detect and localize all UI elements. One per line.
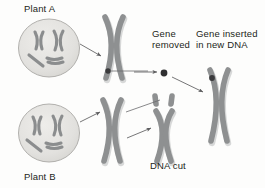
chromosome-result bbox=[209, 70, 229, 143]
label-gene-removed: Gene removed bbox=[152, 28, 190, 50]
cell-membrane-a bbox=[19, 19, 80, 77]
label-dna-cut: DNA cut bbox=[150, 160, 186, 171]
label-gene-inserted: Gene inserted in new DNA bbox=[196, 28, 258, 50]
chromosome-donor bbox=[105, 17, 124, 80]
label-plant-a: Plant A bbox=[24, 3, 55, 14]
arrow-isolated-gene-to-result bbox=[172, 77, 203, 92]
isolated-gene-dot bbox=[161, 70, 168, 77]
arrow-recipient-to-cut bbox=[127, 128, 151, 138]
figure-root: Plant A Plant B Gene removed Gene insert… bbox=[0, 0, 265, 188]
cell-plant-a bbox=[19, 19, 80, 77]
arrow-plant-a-to-donor bbox=[80, 44, 101, 56]
cell-membrane-b bbox=[19, 104, 80, 162]
gene-marker-donor bbox=[105, 68, 110, 73]
gene-marker-result bbox=[209, 75, 215, 81]
chromosome-cut bbox=[155, 96, 173, 163]
cell-plant-b bbox=[19, 104, 80, 162]
arrow-group bbox=[80, 44, 203, 138]
chromosome-recipient bbox=[103, 100, 122, 163]
label-plant-b: Plant B bbox=[24, 171, 56, 182]
arrow-plant-b-to-recipient bbox=[80, 112, 100, 122]
